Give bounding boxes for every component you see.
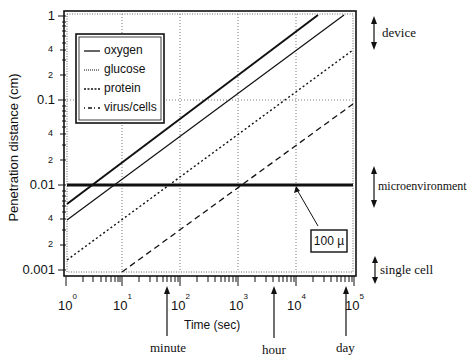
legend-item-glucose: glucose [104, 62, 145, 76]
y-axis-label: Penetration distance (cm) [6, 73, 21, 223]
x-axis-label: Time (sec) [184, 318, 240, 332]
legend-item-virus-cells: virus/cells [104, 100, 157, 114]
box-label-pointer [296, 188, 318, 226]
y-tick-2c: 2 [48, 239, 53, 249]
y-tick-4a: 4 [48, 44, 53, 54]
label-day: day [336, 340, 355, 356]
x-tick-2: 102 [171, 298, 190, 313]
label-microenvironment: microenvironment [378, 179, 467, 194]
y-tick-0.1: 0.1 [37, 92, 55, 107]
y-tick-2a: 2 [48, 70, 53, 80]
label-single-cell: single cell [380, 262, 433, 278]
x-tick-3: 103 [229, 298, 248, 313]
range-arrows [371, 16, 378, 284]
x-tick-1: 101 [113, 298, 132, 313]
y-tick-4c: 4 [48, 213, 53, 223]
y-tick-1: 1 [48, 8, 55, 23]
y-tick-4b: 4 [48, 128, 53, 138]
pointer-arrowhead [294, 186, 300, 193]
y-tick-2b: 2 [48, 155, 53, 165]
x-ticks [66, 276, 354, 286]
box-label-100-micron: 100 µ [313, 234, 345, 248]
y-tick-0.01: 0.01 [30, 177, 55, 192]
y-tick-0.001: 0.001 [22, 262, 55, 277]
label-hour: hour [262, 342, 286, 358]
label-device: device [382, 25, 416, 41]
x-tick-4: 104 [287, 298, 306, 313]
x-tick-5: 105 [345, 298, 364, 313]
x-tick-0: 100 [58, 298, 77, 313]
legend-item-oxygen: oxygen [104, 43, 143, 57]
label-minute: minute [150, 340, 186, 356]
legend-item-protein: protein [104, 81, 141, 95]
